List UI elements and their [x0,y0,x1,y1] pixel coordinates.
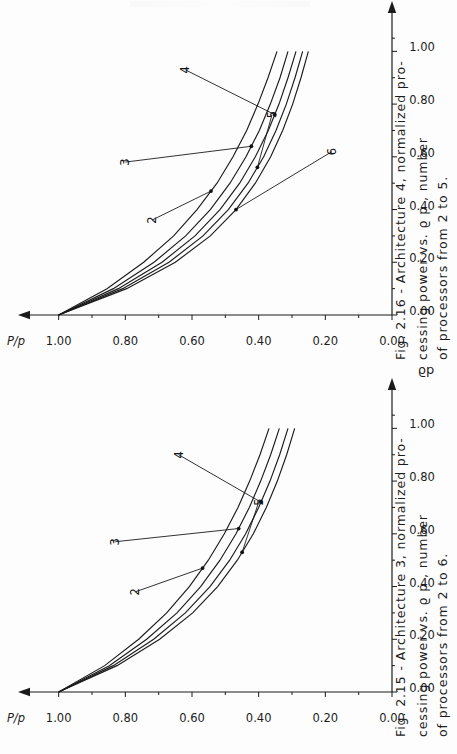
figure-2-15: 23450.000.200.400.600.801.000.000.200.40… [0,377,457,754]
curve-label-4: 4 [178,66,192,73]
curve-leader-line-3 [125,146,251,162]
curve-label-3: 3 [118,158,132,165]
figure-2-16-caption: Fig. 2.16 - Architecture 4, normalized p… [375,0,457,377]
y-tick-label: 0.20 [313,334,339,348]
curve-label-2: 2 [128,588,142,595]
data-curve-2 [59,51,277,315]
curve-label-5: 5 [252,499,266,506]
caption-line-3: of processors from 2 to 6. [435,553,450,737]
curve-label-3: 3 [108,538,122,545]
y-axis-label: P/p [7,334,25,348]
data-curve-3 [59,51,288,315]
curve-leader-line-2 [152,191,211,220]
curve-anchor-dot-5 [240,550,244,554]
curve-leader-line-6 [236,152,332,210]
curve-leader-line-4 [185,70,274,115]
curve-leader-line-4 [179,455,261,502]
caption-line-1: Fig. 2.15 - Architecture 3, normalized p… [393,437,408,737]
curve-anchor-dot-2 [209,189,213,193]
data-curve-5 [59,428,295,692]
y-tick-label: 0.40 [246,334,272,348]
y-tick-label: 0.60 [179,711,205,725]
data-curve-5 [59,51,303,315]
y-tick-label: 0.80 [113,334,139,348]
curve-anchor-dot-3 [249,144,253,148]
curve-leader-line-2 [135,568,202,592]
caption-line-1: Fig. 2.16 - Architecture 4, normalized p… [393,60,408,360]
x-axis-label: ϱp [418,362,435,377]
figure-2-16: 234560.000.200.400.600.801.000.000.200.4… [0,0,457,377]
caption-line-2: cessing power vs. ϱ p , number [415,514,430,737]
figure-2-15-caption: Fig. 2.15 - Architecture 3, normalized p… [375,377,457,754]
y-tick-label: 0.80 [113,711,139,725]
y-axis-arrow-icon [18,311,30,319]
y-tick-label: 1.00 [46,711,72,725]
y-tick-label: 0.20 [313,711,339,725]
y-tick-label: 0.40 [246,711,272,725]
data-curve-4 [59,428,288,692]
y-tick-label: 0.60 [179,334,205,348]
data-curve-4 [59,51,296,315]
curve-anchor-dot-5 [256,165,260,169]
curve-anchor-dot-6 [234,208,238,212]
curve-anchor-dot-3 [237,527,241,531]
data-curve-3 [59,428,280,692]
scanned-page: 234560.000.200.400.600.801.000.000.200.4… [0,0,457,754]
curve-label-6: 6 [325,148,339,155]
caption-line-2: cessing power vs. ϱ p , number [415,137,430,360]
caption-line-3: of processors from 2 to 5. [435,176,450,360]
y-axis-label: P/p [7,711,25,725]
curve-anchor-dot-2 [201,566,205,570]
curve-leader-line-5 [257,115,272,168]
data-curve-6 [59,51,309,315]
y-axis-arrow-icon [18,688,30,696]
y-tick-label: 1.00 [46,334,72,348]
curve-label-4: 4 [172,451,186,458]
curve-label-5: 5 [265,111,279,118]
curve-label-2: 2 [145,216,159,223]
